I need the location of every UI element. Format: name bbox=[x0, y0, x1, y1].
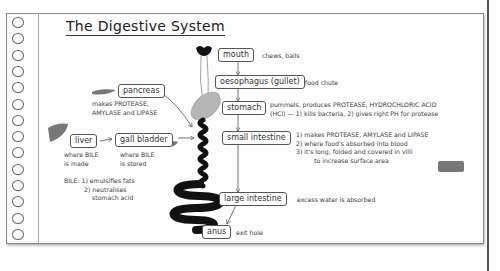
gall-bladder-note-line: is stored bbox=[120, 160, 154, 169]
small-intestine-note-line: 1) makes PROTEASE, AMYLASE and LIPASE bbox=[296, 131, 428, 140]
pancreas-note: makes PROTEASE, AMYLASE and LIPASE bbox=[92, 100, 157, 117]
liver-note-line: where BILE bbox=[64, 151, 98, 160]
small-intestine-note: 1) makes PROTEASE, AMYLASE and LIPASE 2)… bbox=[296, 131, 428, 165]
bile-note-line: 2) neutralises bbox=[64, 186, 135, 195]
small-intestine-note-line: 2) where food's absorbed into blood bbox=[296, 140, 428, 149]
gall-bladder-note-line: where BILE bbox=[120, 151, 154, 160]
bile-note: BILE: 1) emulsifies fats 2) neutralises … bbox=[64, 177, 135, 203]
large-intestine-illustration bbox=[174, 184, 221, 230]
gall-bladder-label: gall bladder bbox=[115, 133, 173, 147]
stomach-note-line: pummels, produces PROTEASE, HYDROCHLORIC… bbox=[270, 101, 438, 110]
pancreas-note-line: AMYLASE and LIPASE bbox=[92, 109, 157, 118]
oesophagus-label: oesophagus (gullet) bbox=[215, 75, 305, 89]
small-intestine-illustration bbox=[200, 120, 206, 186]
stomach-note: pummels, produces PROTEASE, HYDROCHLORIC… bbox=[270, 101, 438, 118]
liver-note: where BILE is made bbox=[64, 151, 98, 168]
stomach-illustration bbox=[191, 92, 220, 120]
bile-note-line: stomach acid bbox=[64, 194, 135, 203]
small-intestine-note-line: to increase surface area bbox=[296, 157, 428, 166]
liver-label: liver bbox=[70, 134, 97, 148]
villi-illustration bbox=[438, 161, 464, 172]
anus-label: anus bbox=[202, 225, 231, 239]
bile-note-line: BILE: 1) emulsifies fats bbox=[64, 177, 135, 186]
pancreas-illustration bbox=[92, 89, 116, 94]
pancreas-label: pancreas bbox=[118, 84, 165, 98]
liver-note-line: is made bbox=[64, 160, 98, 169]
mouth-label: mouth bbox=[218, 48, 254, 62]
mouth-illustration bbox=[196, 46, 212, 56]
mouth-note: chews, balls bbox=[262, 52, 300, 61]
stomach-label: stomach bbox=[222, 101, 266, 115]
oesophagus-note: food chute bbox=[305, 79, 338, 88]
small-intestine-label: small intestine bbox=[222, 131, 291, 145]
gall-bladder-note: where BILE is stored bbox=[120, 151, 154, 168]
stomach-note-line: (HCl) — 1) kills bacteria, 2) gives righ… bbox=[270, 110, 438, 119]
anus-note: exit hole bbox=[236, 229, 263, 238]
large-intestine-label: large intestine bbox=[219, 192, 287, 206]
large-intestine-note: excess water is absorbed bbox=[297, 196, 375, 205]
small-intestine-note-line: 3) it's long, folded and covered in vill… bbox=[296, 148, 428, 157]
pancreas-note-line: makes PROTEASE, bbox=[92, 100, 157, 109]
liver-illustration bbox=[48, 124, 68, 143]
